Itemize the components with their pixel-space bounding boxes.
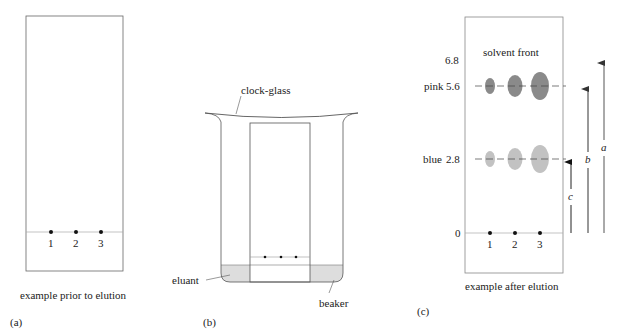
pink-value: 5.6 <box>446 80 460 92</box>
sample-spot-3 <box>99 230 103 234</box>
sample-spot-b3 <box>295 256 298 259</box>
arrow-c-label: c <box>568 190 573 202</box>
caption-a: example prior to elution <box>20 289 126 301</box>
axis-zero: 0 <box>455 227 461 239</box>
origin-spot-2 <box>513 231 517 235</box>
panel-tag-c: (c) <box>417 305 430 318</box>
clock-glass <box>205 113 358 118</box>
panel-c: 1 2 3 solvent front 6.8 pink 5.6 blue 2.… <box>417 17 607 318</box>
pink-name: pink <box>424 80 444 92</box>
panel-b: clock-glass eluant beaker (b) <box>172 84 358 329</box>
spot-label-c3: 3 <box>537 238 543 250</box>
chromatography-figure: 1 2 3 example prior to elution (a) clock… <box>0 0 628 336</box>
eluant-right <box>310 265 343 282</box>
clock-glass-label: clock-glass <box>241 84 290 96</box>
axis-top-value: 6.8 <box>445 54 459 66</box>
panel-tag-a: (a) <box>10 316 23 329</box>
sample-spot-b2 <box>280 256 283 259</box>
plate-in-beaker <box>250 123 310 282</box>
spot-label-3: 3 <box>98 237 104 249</box>
eluant-left <box>221 265 250 282</box>
panel-tag-b: (b) <box>203 316 216 329</box>
arrow-b-label: b <box>585 153 591 165</box>
spot-label-1: 1 <box>48 237 54 249</box>
caption-c: example after elution <box>465 280 559 292</box>
arrow-a-label: a <box>601 141 607 153</box>
panel-a: 1 2 3 example prior to elution (a) <box>10 16 126 329</box>
solvent-front-label: solvent front <box>483 46 539 58</box>
eluant-label: eluant <box>172 274 199 286</box>
sample-spot-1 <box>49 230 53 234</box>
blue-name: blue <box>423 153 442 165</box>
blue-value: 2.8 <box>446 153 460 165</box>
spot-label-c1: 1 <box>487 238 493 250</box>
sample-spot-2 <box>74 230 78 234</box>
beaker-label: beaker <box>319 297 349 309</box>
origin-spot-3 <box>538 231 542 235</box>
origin-spot-1 <box>488 231 492 235</box>
clock-glass-leader <box>236 96 241 114</box>
sample-spot-b1 <box>264 256 267 259</box>
spot-label-2: 2 <box>73 237 79 249</box>
spot-label-c2: 2 <box>512 238 518 250</box>
